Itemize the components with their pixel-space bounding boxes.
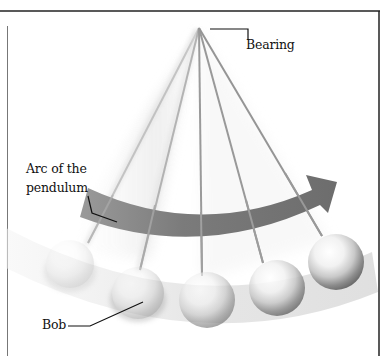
bob-3 xyxy=(179,272,235,328)
fan-shade-right xyxy=(199,28,330,280)
bob-label: Bob xyxy=(42,315,66,334)
arc-label-line1: Arc of the xyxy=(26,159,87,178)
bob-5 xyxy=(308,234,364,290)
bearing-label: Bearing xyxy=(246,35,295,54)
pendulum-diagram: Bearing Arc of the pendulum Bob xyxy=(0,0,390,356)
bearing-leader-line xyxy=(210,29,248,40)
arc-label-line2: pendulum xyxy=(26,178,88,197)
bob-4 xyxy=(249,260,305,316)
